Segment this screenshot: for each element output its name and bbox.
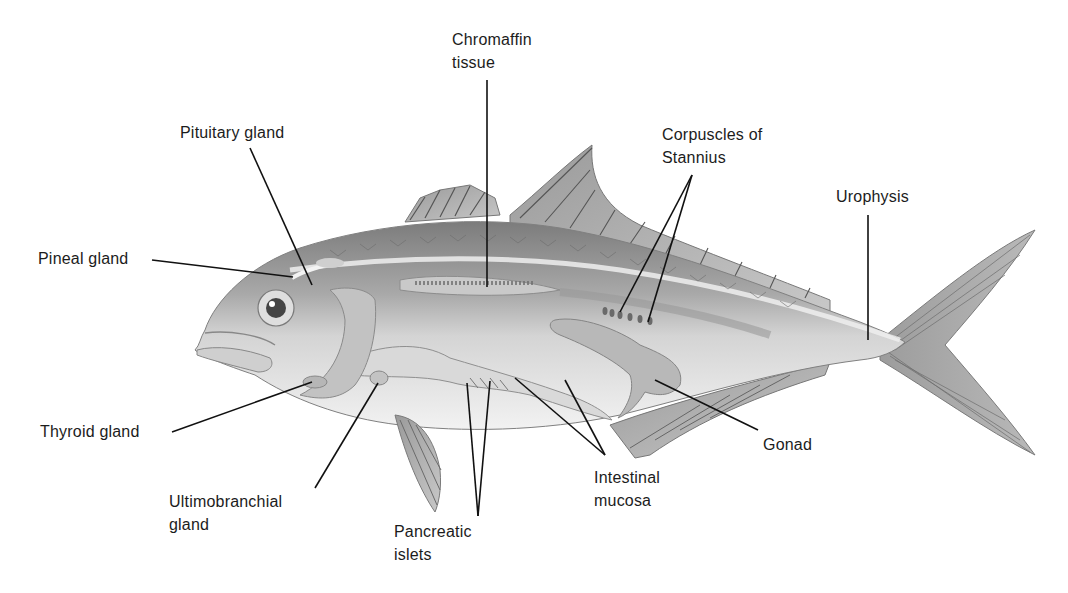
label-pancreatic-islets: Pancreatic islets [394,520,472,566]
fish-endocrine-diagram: Chromaffin tissue Pituitary gland Pineal… [0,0,1068,593]
fish-illustration [0,0,1068,593]
pelvic-fin [395,415,441,512]
label-ultimobranchial-gland: Ultimobranchial gland [169,490,282,536]
label-intestinal-mucosa: Intestinal mucosa [594,466,660,512]
label-thyroid-gland: Thyroid gland [40,420,140,443]
label-pineal-gland: Pineal gland [38,247,128,270]
label-corpuscles-of-stannius: Corpuscles of Stannius [662,123,762,169]
label-chromaffin-tissue: Chromaffin tissue [452,28,532,74]
label-urophysis: Urophysis [836,185,909,208]
label-gonad: Gonad [763,433,812,456]
leader-thyroid [172,382,312,432]
fish-body [195,222,905,430]
label-pituitary-gland: Pituitary gland [180,121,284,144]
